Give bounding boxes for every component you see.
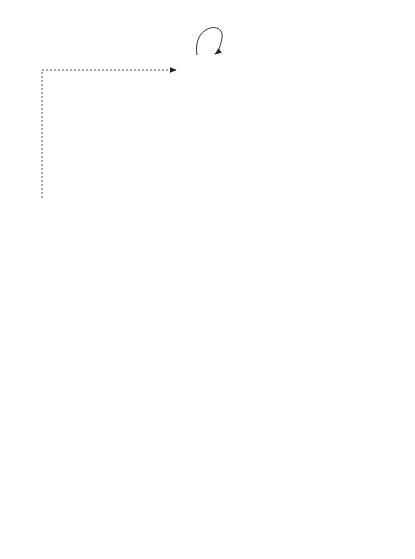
markov-chain-diagram xyxy=(0,0,415,559)
diagram-canvas xyxy=(0,0,415,559)
self-loop-edge xyxy=(196,28,222,55)
dashed-return-edge xyxy=(42,70,176,198)
edges xyxy=(42,28,222,198)
